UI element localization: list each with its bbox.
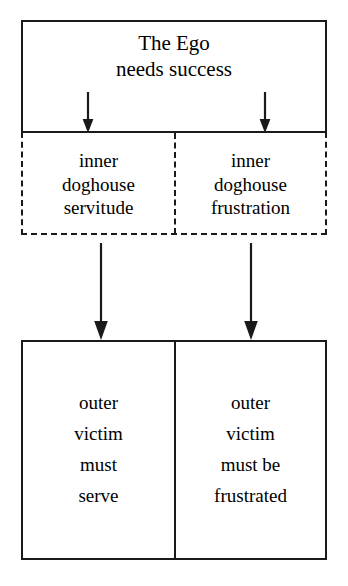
top-box-line-2: needs success	[116, 56, 232, 82]
ego-diagram: The Ego needs success inner doghouse ser…	[0, 0, 348, 586]
cell-line: serve	[78, 481, 118, 512]
cell-line: outer	[231, 388, 270, 419]
cell-line: servitude	[64, 196, 134, 220]
cell-line: doghouse	[62, 173, 135, 197]
cell-outer-victim-must-be-frustrated: outer victim must be frustrated	[176, 342, 325, 558]
cell-line: inner	[231, 149, 270, 173]
top-box-line-1: The Ego	[138, 30, 210, 56]
cell-line: must be	[221, 450, 281, 481]
arrow-servitude-to-serve	[92, 243, 110, 341]
cell-inner-doghouse-frustration: inner doghouse frustration	[176, 136, 325, 233]
cell-line: victim	[226, 419, 275, 450]
cell-line: frustrated	[214, 481, 287, 512]
arrow-ego-to-frustration	[257, 92, 273, 134]
top-box-text: The Ego needs success	[23, 24, 325, 104]
cell-line: outer	[79, 388, 118, 419]
cell-line: frustration	[211, 196, 290, 220]
cell-line: inner	[79, 149, 118, 173]
arrow-ego-to-servitude	[80, 92, 96, 134]
arrow-frustration-to-frustrated	[242, 243, 260, 341]
cell-outer-victim-must-serve: outer victim must serve	[23, 342, 174, 558]
cell-inner-doghouse-servitude: inner doghouse servitude	[23, 136, 174, 233]
cell-line: must	[80, 450, 117, 481]
cell-line: doghouse	[214, 173, 287, 197]
cell-line: victim	[74, 419, 123, 450]
